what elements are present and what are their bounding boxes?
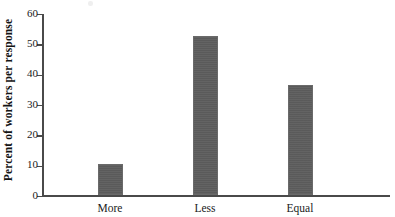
x-label-more: More [98, 202, 123, 214]
y-tick-label: 0 [33, 189, 39, 201]
y-tick-label: 40 [27, 67, 38, 79]
y-tick-label: 60 [27, 7, 38, 19]
x-label-less: Less [194, 202, 215, 214]
bar-chart: Percent of workers per response 01020304… [0, 0, 395, 217]
y-tick-label: 20 [27, 128, 38, 140]
y-axis-title: Percent of workers per response [0, 0, 16, 200]
y-tick-label: 10 [27, 158, 38, 170]
bar-less [193, 36, 218, 195]
bar-more [98, 164, 123, 195]
plot-area: 0102030405060 MoreLessEqual [42, 14, 390, 196]
y-axis-line [42, 14, 44, 196]
y-tick-label: 50 [27, 37, 38, 49]
bar-equal [288, 85, 313, 195]
x-label-equal: Equal [287, 202, 314, 214]
x-axis-line [42, 195, 390, 197]
scan-artifact [88, 1, 93, 6]
y-tick-label: 30 [27, 98, 38, 110]
y-axis-title-text: Percent of workers per response [2, 19, 14, 181]
